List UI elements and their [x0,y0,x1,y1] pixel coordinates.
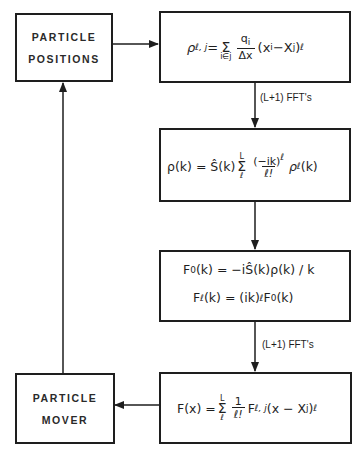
charge-moments-box: ρℓ, j = Σi∈j qiΔx (xi−Xj)ℓ [159,11,351,83]
particle-mover-box: PARTICLE MOVER [15,373,115,444]
particle-mover-line2: MOVER [42,409,89,431]
field-k-equation-2: Fℓ(k) = (ik)ℓF0(k) [193,290,293,305]
field-k-equation-1: F0(k) = −iŜ(k)ρ(k) / k [183,262,315,277]
fft-label-1: (L+1) FFT's [260,92,312,103]
field-x-box: F(x) = LΣℓ 1ℓ! Fℓ, j(x − Xj)ℓ [159,372,352,444]
particle-positions-line2: POSITIONS [28,48,100,70]
particle-positions-box: PARTICLE POSITIONS [15,13,113,82]
summation: LΣℓ [237,153,246,180]
fraction: 1ℓ! [232,396,245,420]
density-k-equation: ρ(k) = Ŝ(k) LΣℓ (−ik)ℓℓ! ρℓ (k) [167,146,318,186]
summation: Σi∈j [220,34,231,61]
fft-label-2: (L+1) FFT's [262,339,314,350]
field-x-equation: F(x) = LΣℓ 1ℓ! Fℓ, j(x − Xj)ℓ [177,388,317,428]
particle-positions-line1: PARTICLE [32,26,97,48]
particle-mover-line1: PARTICLE [33,387,98,409]
fraction: qiΔx [237,33,255,60]
summation: LΣℓ [218,395,227,422]
density-k-box: ρ(k) = Ŝ(k) LΣℓ (−ik)ℓℓ! ρℓ (k) [159,128,351,202]
fraction: (−ik)ℓℓ! [251,153,286,180]
field-k-box: F0(k) = −iŜ(k)ρ(k) / k Fℓ(k) = (ik)ℓF0(k… [159,250,351,322]
charge-moments-equation: ρℓ, j = Σi∈j qiΔx (xi−Xj)ℓ [187,27,304,67]
